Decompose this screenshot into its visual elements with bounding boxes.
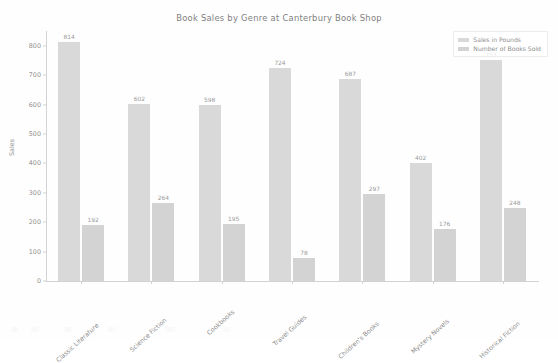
bar[interactable]: 402	[410, 163, 432, 281]
x-tick-label: Children's Books	[376, 285, 419, 325]
legend-label: Number of Books Sold	[473, 45, 541, 52]
bar-group: 753248	[480, 31, 526, 281]
bar[interactable]: 78	[293, 258, 315, 281]
y-tick-mark	[43, 281, 46, 282]
plot-area: 0100200300400500600700800 81419260226459…	[46, 31, 538, 281]
bar-value-label: 602	[134, 96, 145, 102]
bar[interactable]: 297	[363, 194, 385, 281]
bar-value-label: 687	[345, 71, 356, 77]
x-tick-mark	[222, 281, 223, 284]
x-tick-label: Science Fiction	[163, 285, 203, 322]
x-tick-mark	[292, 281, 293, 284]
bar[interactable]: 753	[480, 60, 502, 281]
x-tick-label-text: Mystery Novels	[409, 317, 450, 355]
x-tick-label: Classic Literature	[95, 285, 140, 327]
bar-value-label: 297	[369, 186, 380, 192]
y-tick-mark	[43, 192, 46, 193]
y-tick-mark	[43, 163, 46, 164]
bar-group: 814192	[58, 31, 104, 281]
bar-value-label: 195	[228, 216, 239, 222]
x-tick-label-text: Science Fiction	[129, 316, 169, 353]
y-tick-mark	[43, 75, 46, 76]
bar[interactable]: 687	[339, 79, 361, 281]
bar[interactable]: 248	[504, 208, 526, 281]
legend-item[interactable]: Sales in Pounds	[458, 35, 541, 44]
bar-value-label: 598	[204, 97, 215, 103]
x-tick-mark	[503, 281, 504, 284]
legend-swatch	[458, 47, 469, 51]
x-tick-mark	[433, 281, 434, 284]
bar-group: 72478	[269, 31, 315, 281]
bar-value-label: 264	[158, 195, 169, 201]
legend-item[interactable]: Number of Books Sold	[458, 44, 541, 53]
bar-value-label: 192	[88, 217, 99, 223]
x-tick-label: Mystery Novels	[445, 285, 486, 323]
bar[interactable]: 192	[82, 225, 104, 281]
bar[interactable]: 195	[223, 224, 245, 281]
x-tick-label-text: Children's Books	[337, 320, 380, 360]
bar[interactable]: 598	[199, 105, 221, 281]
bar-value-label: 402	[415, 155, 426, 161]
bar[interactable]: 264	[152, 203, 174, 281]
bar[interactable]: 724	[269, 68, 291, 281]
bar[interactable]: 176	[434, 229, 456, 281]
x-tick-label-text: Travel Guides	[271, 313, 307, 347]
bar-value-label: 78	[300, 250, 308, 256]
legend-swatch	[458, 38, 469, 42]
bar-group: 602264	[128, 31, 174, 281]
x-tick-label: Historical Fiction	[516, 285, 558, 325]
y-tick-mark	[43, 222, 46, 223]
bar-group: 402176	[410, 31, 456, 281]
y-tick-mark	[43, 104, 46, 105]
chart-legend: Sales in PoundsNumber of Books Sold	[453, 31, 548, 57]
x-tick-mark	[362, 281, 363, 284]
x-tick-mark	[151, 281, 152, 284]
bar[interactable]: 602	[128, 104, 150, 281]
bar-value-label: 248	[509, 200, 520, 206]
bar[interactable]: 814	[58, 42, 80, 281]
bar-value-label: 176	[439, 221, 450, 227]
y-tick-mark	[43, 251, 46, 252]
scan-artifact	[10, 327, 250, 332]
x-tick-mark	[81, 281, 82, 284]
y-tick-mark	[43, 45, 46, 46]
y-tick-mark	[43, 133, 46, 134]
y-axis-label: Sales	[8, 139, 16, 156]
chart-title: Book Sales by Genre at Canterbury Book S…	[0, 13, 558, 23]
x-tick-label-text: Historical Fiction	[478, 320, 521, 360]
bar-value-label: 724	[274, 60, 285, 66]
legend-label: Sales in Pounds	[473, 36, 521, 43]
x-tick-label: Cookbooks	[231, 285, 261, 313]
x-tick-label: Travel Guides	[303, 285, 339, 319]
bar-group: 687297	[339, 31, 385, 281]
bar-group: 598195	[199, 31, 245, 281]
bar-value-label: 814	[64, 34, 75, 40]
